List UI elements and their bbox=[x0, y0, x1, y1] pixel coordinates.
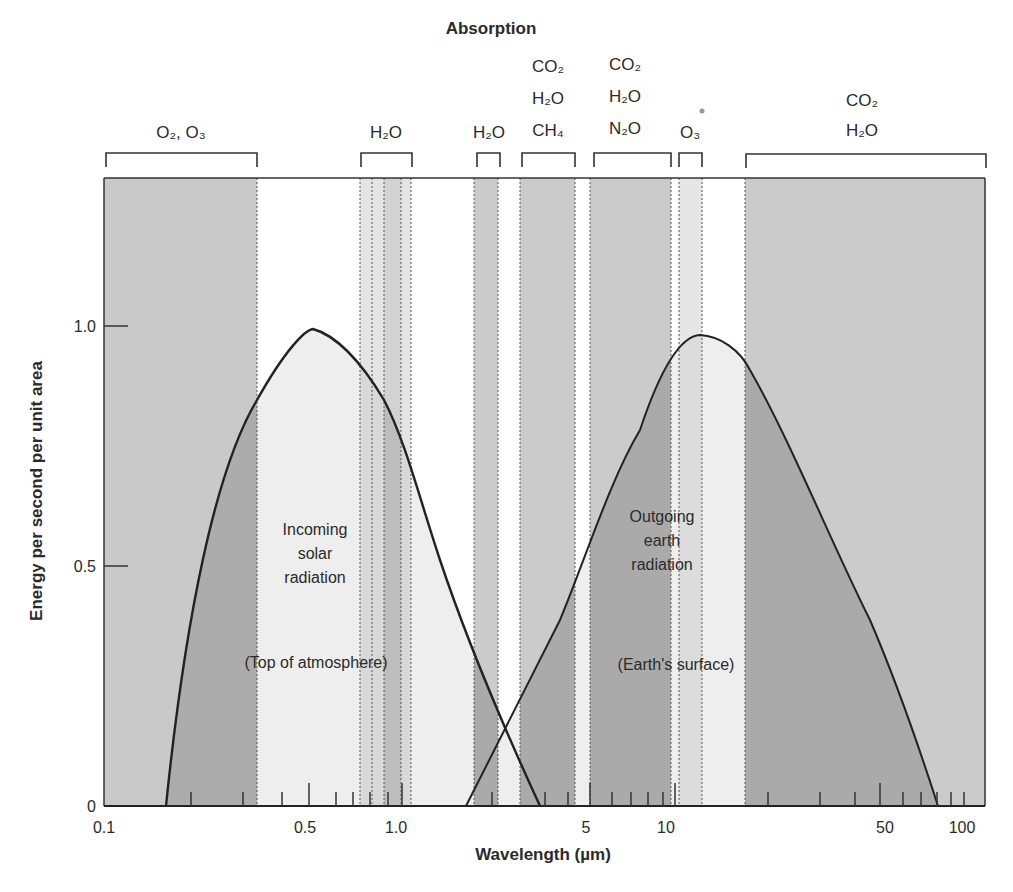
band-label-h2o-1: H₂O bbox=[370, 123, 402, 142]
band-label-o3: O₃ bbox=[680, 123, 700, 142]
x-tick-1-0: 1.0 bbox=[385, 819, 407, 836]
band-label-far-h2o: H₂O bbox=[846, 121, 878, 140]
incoming-note: (Top of atmosphere) bbox=[244, 654, 387, 671]
band-label-o2-o3: O₂, O₃ bbox=[156, 123, 205, 142]
band-label-h2o-2: H₂O bbox=[473, 123, 505, 142]
x-tick-0-1: 0.1 bbox=[93, 819, 115, 836]
band-label-n2o-co2: CO₂ bbox=[609, 55, 641, 74]
outgoing-note: (Earth's surface) bbox=[618, 656, 735, 673]
x-tick-50: 50 bbox=[876, 819, 894, 836]
y-axis-title: Energy per second per unit area bbox=[27, 361, 46, 621]
incoming-label-line3: radiation bbox=[284, 569, 345, 586]
band-label-n2o: N₂O bbox=[609, 119, 641, 138]
bracket-o3 bbox=[679, 153, 702, 167]
band-label-n2o-h2o: H₂O bbox=[609, 87, 641, 106]
incoming-label-line1: Incoming bbox=[283, 521, 348, 538]
band-label-far-co2: CO₂ bbox=[846, 91, 878, 110]
y-tick-0: 0 bbox=[87, 798, 96, 815]
band-label-ch4: CH₄ bbox=[532, 121, 564, 140]
band-labels: O₂, O₃ H₂O H₂O CO₂ H₂O CH₄ CO₂ H₂O N₂O O… bbox=[156, 55, 878, 142]
band-label-ch4-h2o: H₂O bbox=[532, 89, 564, 108]
x-tick-labels: 0.1 0.5 1.0 5 10 50 100 bbox=[93, 819, 976, 836]
y-tick-labels: 1.0 0.5 0 bbox=[74, 318, 96, 815]
absorption-brackets bbox=[106, 153, 986, 168]
x-tick-0-5: 0.5 bbox=[294, 819, 316, 836]
print-speck bbox=[700, 109, 705, 114]
bracket-co2-h2o-ch4 bbox=[522, 153, 575, 167]
x-tick-100: 100 bbox=[949, 819, 976, 836]
x-tick-5: 5 bbox=[582, 819, 591, 836]
radiation-absorption-chart: Absorption O₂, O₃ H₂O H₂O CO₂ H₂O CH₄ CO… bbox=[0, 0, 1013, 892]
outgoing-label-line3: radiation bbox=[631, 556, 692, 573]
incoming-label-line2: solar bbox=[298, 545, 333, 562]
y-tick-0-5: 0.5 bbox=[74, 558, 96, 575]
x-tick-10: 10 bbox=[657, 819, 675, 836]
x-axis-title: Wavelength (µm) bbox=[475, 845, 611, 864]
y-tick-1-0: 1.0 bbox=[74, 318, 96, 335]
bracket-o2-o3 bbox=[106, 153, 257, 167]
outgoing-label-line1: Outgoing bbox=[630, 508, 695, 525]
bracket-h2o-1 bbox=[361, 153, 412, 167]
chart-title: Absorption bbox=[446, 19, 537, 38]
outgoing-label-line2: earth bbox=[644, 532, 680, 549]
bracket-co2-h2o-far bbox=[746, 154, 986, 168]
bracket-co2-h2o-n2o bbox=[594, 153, 671, 167]
band-label-ch4-co2: CO₂ bbox=[532, 57, 564, 76]
bracket-h2o-2 bbox=[477, 153, 500, 167]
